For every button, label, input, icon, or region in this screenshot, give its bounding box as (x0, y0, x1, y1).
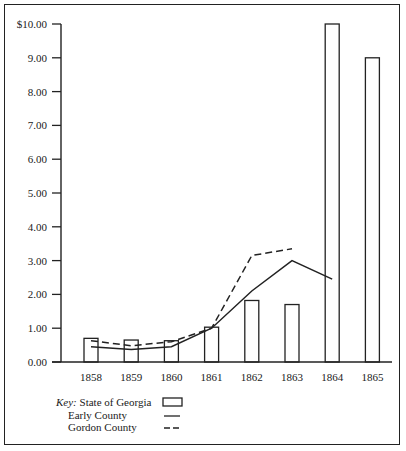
x-tick-label: 1865 (361, 371, 384, 383)
y-tick-label: 6.00 (28, 153, 48, 165)
bar-georgia (365, 58, 379, 362)
x-tick-label: 1863 (281, 371, 304, 383)
y-tick-label: 0.00 (28, 356, 48, 368)
x-tick-label: 1860 (160, 371, 183, 383)
x-tick-label: 1858 (80, 371, 103, 383)
legend-label-gordon: Gordon County (68, 421, 137, 434)
chart-plot: 0.001.002.003.004.005.006.007.008.009.00… (0, 0, 406, 451)
line-gordon-county (91, 249, 292, 346)
solid-line-swatch-icon (162, 410, 184, 420)
bar-georgia (285, 305, 299, 362)
y-tick-label: 1.00 (28, 322, 48, 334)
legend-label-georgia: State of Georgia (80, 396, 152, 408)
dashed-line-swatch-icon (162, 422, 184, 432)
y-tick-label: $10.00 (17, 18, 48, 30)
bar-georgia (245, 300, 259, 362)
y-tick-label: 9.00 (28, 52, 48, 64)
legend-key-label: Key: (56, 396, 77, 408)
y-tick-label: 7.00 (28, 119, 48, 131)
y-tick-label: 3.00 (28, 255, 48, 267)
y-tick-label: 4.00 (28, 221, 48, 233)
y-tick-label: 5.00 (28, 187, 48, 199)
x-tick-label: 1864 (321, 371, 344, 383)
bar-georgia (124, 340, 138, 362)
y-tick-label: 2.00 (28, 288, 48, 300)
y-tick-label: 8.00 (28, 86, 48, 98)
x-tick-label: 1859 (120, 371, 143, 383)
x-tick-label: 1861 (201, 371, 223, 383)
bar-georgia (325, 24, 339, 362)
legend-label-early: Early County (68, 409, 127, 422)
bar-georgia (205, 327, 219, 362)
bar-swatch-icon (162, 397, 184, 407)
x-tick-label: 1862 (241, 371, 263, 383)
